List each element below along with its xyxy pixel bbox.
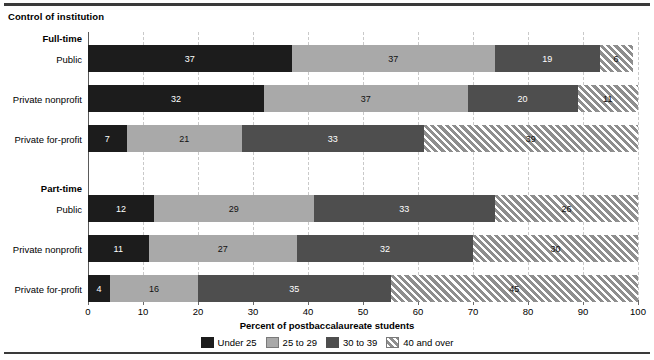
bar-value-label: 21 xyxy=(179,134,189,144)
bar-value-label: 26 xyxy=(561,204,571,214)
bar-segment-25-to-29[interactable]: 16 xyxy=(110,275,198,302)
bar-value-label: 29 xyxy=(229,204,239,214)
chart-figure: Control of institution 01020304050607080… xyxy=(0,0,654,360)
bar-segment-25-to-29[interactable]: 37 xyxy=(292,45,496,72)
bar-value-label: 33 xyxy=(399,204,409,214)
bar-value-label: 11 xyxy=(114,244,123,254)
bar-row[interactable]: 12293326 xyxy=(88,195,638,222)
bar-value-label: 12 xyxy=(116,204,126,214)
bar-segment-30-to-39[interactable]: 32 xyxy=(297,235,473,262)
row-label-5: Private for-profit xyxy=(0,284,82,295)
group-heading-full-time: Full-time xyxy=(0,33,82,44)
tick-label-30: 30 xyxy=(248,306,259,317)
bottom-rule xyxy=(4,352,650,354)
row-label-1: Private nonprofit xyxy=(0,94,82,105)
bar-value-label: 30 xyxy=(550,244,560,254)
bar-segment-25-to-29[interactable]: 37 xyxy=(264,85,468,112)
row-label-3: Public xyxy=(0,204,82,215)
bar-segment-under-25[interactable]: 7 xyxy=(88,125,127,152)
tick-label-40: 40 xyxy=(303,306,314,317)
gridline-100 xyxy=(638,32,639,300)
legend-label: 40 and over xyxy=(403,337,453,348)
bar-value-label: 37 xyxy=(361,94,371,104)
legend-swatch-icon xyxy=(326,337,339,348)
bar-row[interactable]: 32372011 xyxy=(88,85,638,112)
bar-value-label: 6 xyxy=(613,54,618,64)
legend-item-under-25[interactable]: Under 25 xyxy=(201,337,257,348)
tick-label-80: 80 xyxy=(523,306,534,317)
legend-swatch-icon xyxy=(266,337,279,348)
bar-row[interactable]: 11273230 xyxy=(88,235,638,262)
bar-value-label: 20 xyxy=(517,94,527,104)
bar-value-label: 37 xyxy=(388,54,398,64)
tick-label-20: 20 xyxy=(193,306,204,317)
bar-value-label: 19 xyxy=(542,54,552,64)
bar-segment-40-and-over[interactable]: 30 xyxy=(473,235,638,262)
bar-row[interactable]: 7213339 xyxy=(88,125,638,152)
bar-value-label: 37 xyxy=(185,54,195,64)
bar-segment-30-to-39[interactable]: 20 xyxy=(468,85,578,112)
row-label-0: Public xyxy=(0,54,82,65)
x-axis-title: Percent of postbaccalaureate students xyxy=(0,320,654,331)
bar-segment-30-to-39[interactable]: 19 xyxy=(495,45,600,72)
top-rule xyxy=(4,3,650,6)
bar-row[interactable]: 4163545 xyxy=(88,275,638,302)
bar-segment-25-to-29[interactable]: 29 xyxy=(154,195,314,222)
bar-segment-40-and-over[interactable]: 6 xyxy=(600,45,633,72)
legend-item-40-and-over[interactable]: 40 and over xyxy=(386,337,453,348)
row-label-2: Private for-profit xyxy=(0,134,82,145)
tick-mark-100 xyxy=(638,300,639,305)
bar-segment-under-25[interactable]: 11 xyxy=(88,235,149,262)
bar-segment-under-25[interactable]: 37 xyxy=(88,45,292,72)
bar-value-label: 35 xyxy=(289,284,299,294)
bar-segment-under-25[interactable]: 32 xyxy=(88,85,264,112)
tick-label-50: 50 xyxy=(358,306,369,317)
bar-value-label: 39 xyxy=(526,134,536,144)
bar-segment-30-to-39[interactable]: 33 xyxy=(314,195,496,222)
bar-value-label: 4 xyxy=(96,284,101,294)
tick-label-0: 0 xyxy=(85,306,90,317)
bar-value-label: 33 xyxy=(328,134,338,144)
bar-segment-40-and-over[interactable]: 11 xyxy=(578,85,639,112)
legend-swatch-icon xyxy=(386,337,399,348)
group-heading-part-time: Part-time xyxy=(0,183,82,194)
bar-segment-25-to-29[interactable]: 21 xyxy=(127,125,243,152)
bar-segment-30-to-39[interactable]: 33 xyxy=(242,125,424,152)
legend-item-30-to-39[interactable]: 30 to 39 xyxy=(326,337,377,348)
legend-label: 25 to 29 xyxy=(283,337,317,348)
bar-value-label: 32 xyxy=(380,244,390,254)
legend-swatch-icon xyxy=(201,337,214,348)
legend-label: 30 to 39 xyxy=(343,337,377,348)
chart-legend: Under 2525 to 2930 to 3940 and over xyxy=(0,337,654,348)
legend-label: Under 25 xyxy=(218,337,257,348)
bar-segment-25-to-29[interactable]: 27 xyxy=(149,235,298,262)
bar-row[interactable]: 3737196 xyxy=(88,45,638,72)
bar-value-label: 11 xyxy=(603,94,612,104)
tick-label-70: 70 xyxy=(468,306,479,317)
tick-label-10: 10 xyxy=(138,306,149,317)
tick-label-90: 90 xyxy=(578,306,589,317)
bar-value-label: 16 xyxy=(149,284,159,294)
bar-segment-40-and-over[interactable]: 45 xyxy=(391,275,639,302)
bar-value-label: 7 xyxy=(105,134,110,144)
bar-segment-40-and-over[interactable]: 39 xyxy=(424,125,639,152)
page-title: Control of institution xyxy=(8,11,104,22)
tick-label-60: 60 xyxy=(413,306,424,317)
bar-value-label: 32 xyxy=(171,94,181,104)
bar-segment-30-to-39[interactable]: 35 xyxy=(198,275,391,302)
tick-label-100: 100 xyxy=(630,306,646,317)
bar-segment-under-25[interactable]: 4 xyxy=(88,275,110,302)
bar-value-label: 45 xyxy=(509,284,519,294)
legend-item-25-to-29[interactable]: 25 to 29 xyxy=(266,337,317,348)
bar-segment-40-and-over[interactable]: 26 xyxy=(495,195,638,222)
bar-segment-under-25[interactable]: 12 xyxy=(88,195,154,222)
row-label-4: Private nonprofit xyxy=(0,244,82,255)
bar-value-label: 27 xyxy=(218,244,228,254)
